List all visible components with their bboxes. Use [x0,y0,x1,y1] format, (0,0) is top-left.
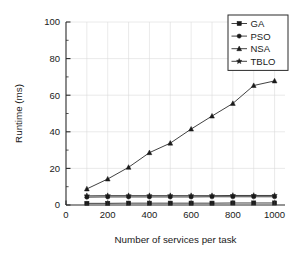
x-tick-label: 600 [183,209,199,220]
x-tick-label: 200 [100,209,116,220]
marker-square [237,21,241,25]
chart-figure: 02040608010002004006008001000 Runtime (m… [0,0,306,257]
y-tick-label: 60 [49,90,60,101]
x-tick-label: 800 [225,209,241,220]
x-tick-label: 0 [63,209,68,220]
x-tick-label: 400 [141,209,157,220]
runtime-line-chart: 02040608010002004006008001000 Runtime (m… [0,0,306,257]
y-tick-label: 40 [49,126,60,137]
y-tick-label: 100 [44,16,60,27]
y-axis-title: Runtime (ms) [13,84,24,143]
legend-label: NSA [251,43,271,54]
x-tick-label: 1000 [264,209,285,220]
chart-legend: GAPSONSATBLO [228,15,288,70]
marker-circle [237,34,241,38]
y-tick-label: 20 [49,163,60,174]
x-axis-title: Number of services per task [115,234,237,245]
y-tick-label: 0 [55,199,60,210]
legend-label: GA [251,18,265,29]
y-tick-label: 80 [49,53,60,64]
legend-label: TBLO [251,56,276,67]
legend-label: PSO [251,31,271,42]
